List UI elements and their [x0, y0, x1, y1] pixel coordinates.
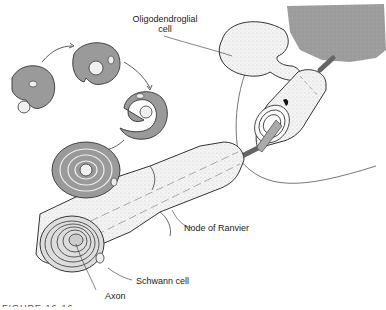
label-oligodendroglial-cell: Oligodendroglial cell [128, 14, 202, 34]
label-schwann-cell: Schwann cell [136, 276, 189, 286]
label-line-2: cell [128, 24, 202, 34]
schwann-stage-3 [120, 92, 167, 140]
label-line-1: Oligodendroglial [128, 14, 202, 24]
label-node-of-ranvier: Node of Ranvier [184, 223, 249, 233]
cns-tissue [287, 4, 386, 62]
schwann-stage-4 [52, 142, 120, 198]
figure-caption: FIGURE 16-16 [2, 303, 74, 307]
myelin-lamellae-cross-section [40, 216, 104, 272]
schwann-stage-2 [73, 43, 120, 85]
myelination-diagram [0, 0, 386, 310]
label-axon: Axon [105, 291, 126, 301]
schwann-stage-1 [12, 66, 55, 113]
leader-schwann [108, 268, 132, 280]
oligodendroglial-cell [219, 22, 301, 81]
